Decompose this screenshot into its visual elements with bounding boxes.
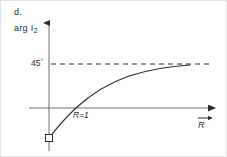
asymptote-label: 45° [31, 59, 43, 68]
degree-symbol: ° [40, 58, 43, 65]
figure-root: d. arg I2 45° R=1 R [0, 0, 227, 157]
x-axis-label: R [198, 121, 205, 130]
open-square-marker-icon [46, 135, 53, 142]
y-axis-label-subscript: 2 [34, 27, 38, 34]
x-intercept-label: R=1 [73, 111, 89, 120]
curve-arg-i2 [49, 65, 190, 138]
y-axis-label-base: arg I [14, 23, 34, 33]
y-axis-label: arg I2 [14, 24, 37, 34]
part-label: d. [14, 8, 22, 17]
